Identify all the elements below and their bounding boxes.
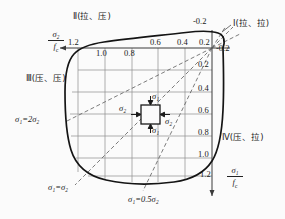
y-axis-denominator: fc [227, 178, 243, 189]
x-tick-neg0.2: -0.2 [193, 17, 206, 26]
x-tick-0.4: 0.4 [177, 38, 188, 47]
y-tick-0.4: 0.4 [198, 84, 209, 93]
x-tick-0.6: 0.6 [150, 38, 161, 47]
y-tick-1.0: 1.0 [198, 150, 209, 159]
ray-sigma1-half-sigma2-label: σ₁=0.5σ₂ [128, 195, 159, 204]
x-axis-numerator: σ₂ [48, 30, 64, 39]
stress-label-sigma2-left: σ₂ [119, 104, 126, 113]
stress-label-sigma1-bottom: σ₁ [152, 126, 159, 135]
stress-element-square [141, 105, 160, 124]
stress-label-sigma2-right: σ₂ [165, 117, 172, 126]
arrow-top-head [148, 101, 153, 106]
ray-sigma1-sigma2-label: σ₁=σ₂ [48, 183, 68, 192]
y-axis-label-sigma1-over-fc: σ₁ fc [227, 166, 243, 188]
y-axis-frac-bar [227, 176, 243, 177]
x-axis-frac-bar [48, 40, 64, 41]
x-tick-1.0: 1.0 [96, 49, 107, 58]
quadrant-1-leader [222, 25, 231, 32]
arrow-left-head [137, 112, 142, 117]
quadrant-4-label: Ⅳ(压、拉) [222, 133, 263, 142]
arrow-right-head [160, 112, 165, 117]
stress-element [131, 96, 170, 133]
y-tick-0.6: 0.6 [198, 106, 209, 115]
x-tick-0.8: 0.8 [124, 49, 135, 58]
axis-arrowheads [60, 46, 215, 197]
x-tick-1.2: 1.2 [68, 38, 79, 47]
stress-label-sigma1-top: σ₁ [152, 92, 159, 101]
quadrant-1-label: Ⅰ(拉、拉) [233, 19, 269, 28]
ray-sigma1-2sigma2-label: σ₁=2σ₂ [15, 115, 39, 124]
x-axis-label-sigma2-over-fc: σ₂ fc [48, 30, 64, 52]
x-tick-0.2: 0.2 [199, 38, 210, 47]
y-axis-numerator: σ₁ [227, 166, 243, 175]
x-axis-denominator: fc [48, 42, 64, 53]
y-tick-1.2: 1.2 [200, 170, 211, 179]
quadrant-3-label: Ⅲ(压、压) [26, 74, 66, 83]
y-axis-arrow [210, 190, 215, 196]
y-tick-neg0.2: -0.2 [216, 44, 229, 53]
y-tick-0.2: 0.2 [198, 60, 209, 69]
ray-sigma1-2sigma2-line [65, 48, 212, 122]
y-tick-0.8: 0.8 [198, 128, 209, 137]
quadrant-2-label: Ⅱ(拉、压) [73, 12, 111, 21]
biaxial-strength-diagram: σ₂ fc σ₁ fc 1.2 1.0 0.8 0.6 0.4 0.2 -0.2… [0, 0, 285, 219]
